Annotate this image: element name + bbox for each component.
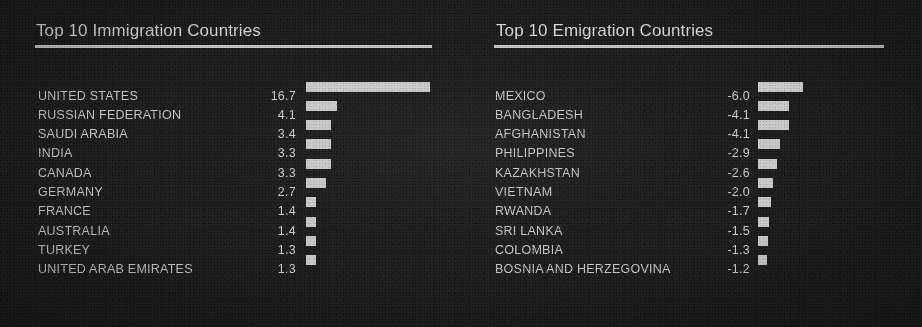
bar-row: RUSSIAN FEDERATION4.1 (0, 106, 470, 125)
bar-row: PHILIPPINES-2.9 (470, 144, 922, 163)
emigration-country-label: SRI LANKA (495, 222, 563, 241)
immigration-value-label: 16.7 (216, 87, 296, 106)
immigration-bar (306, 159, 331, 169)
bar-row: TURKEY1.3 (0, 241, 470, 260)
immigration-country-label: GERMANY (38, 183, 103, 202)
emigration-country-label: PHILIPPINES (495, 144, 575, 163)
emigration-value-label: -1.3 (670, 241, 750, 260)
immigration-value-label: 3.4 (216, 125, 296, 144)
immigration-value-label: 1.3 (216, 241, 296, 260)
emigration-bar-rows: MEXICO-6.0BANGLADESH-4.1AFGHANISTAN-4.1P… (470, 0, 922, 327)
bar-row: SRI LANKA-1.5 (470, 222, 922, 241)
immigration-country-label: SAUDI ARABIA (38, 125, 128, 144)
immigration-bar (306, 197, 316, 207)
immigration-value-label: 3.3 (216, 144, 296, 163)
immigration-country-label: CANADA (38, 164, 92, 183)
bar-row: CANADA3.3 (0, 164, 470, 183)
immigration-country-label: TURKEY (38, 241, 90, 260)
immigration-value-label: 1.3 (216, 260, 296, 279)
immigration-value-label: 1.4 (216, 222, 296, 241)
emigration-country-label: BOSNIA AND HERZEGOVINA (495, 260, 671, 279)
emigration-value-label: -4.1 (670, 125, 750, 144)
immigration-country-label: RUSSIAN FEDERATION (38, 106, 181, 125)
emigration-country-label: KAZAKHSTAN (495, 164, 580, 183)
immigration-bar (306, 255, 316, 265)
emigration-value-label: -2.0 (670, 183, 750, 202)
immigration-bar (306, 236, 316, 246)
bar-row: KAZAKHSTAN-2.6 (470, 164, 922, 183)
bar-row: VIETNAM-2.0 (470, 183, 922, 202)
bar-row: COLOMBIA-1.3 (470, 241, 922, 260)
bar-row: BANGLADESH-4.1 (470, 106, 922, 125)
emigration-bar (758, 197, 771, 207)
emigration-bar (758, 159, 777, 169)
immigration-country-label: INDIA (38, 144, 73, 163)
emigration-value-label: -1.5 (670, 222, 750, 241)
emigration-bar (758, 236, 768, 246)
immigration-value-label: 1.4 (216, 202, 296, 221)
bar-row: INDIA3.3 (0, 144, 470, 163)
immigration-bar (306, 139, 331, 149)
emigration-bar (758, 139, 780, 149)
immigration-bar (306, 217, 316, 227)
immigration-country-label: UNITED ARAB EMIRATES (38, 260, 193, 279)
emigration-value-label: -1.2 (670, 260, 750, 279)
immigration-bar (306, 82, 430, 92)
immigration-bar (306, 120, 331, 130)
emigration-country-label: VIETNAM (495, 183, 552, 202)
emigration-value-label: -2.6 (670, 164, 750, 183)
emigration-country-label: COLOMBIA (495, 241, 563, 260)
immigration-value-label: 4.1 (216, 106, 296, 125)
emigration-bar (758, 255, 767, 265)
emigration-value-label: -2.9 (670, 144, 750, 163)
emigration-bar (758, 217, 769, 227)
immigration-country-label: AUSTRALIA (38, 222, 110, 241)
emigration-value-label: -6.0 (670, 87, 750, 106)
bar-row: AFGHANISTAN-4.1 (470, 125, 922, 144)
immigration-country-label: UNITED STATES (38, 87, 138, 106)
bar-row: MEXICO-6.0 (470, 87, 922, 106)
emigration-bar (758, 178, 773, 188)
emigration-bar (758, 82, 803, 92)
emigration-bar (758, 101, 789, 111)
immigration-value-label: 3.3 (216, 164, 296, 183)
emigration-panel: Top 10 Emigration Countries MEXICO-6.0BA… (470, 0, 922, 327)
emigration-value-label: -4.1 (670, 106, 750, 125)
emigration-bar (758, 120, 789, 130)
bar-row: UNITED ARAB EMIRATES1.3 (0, 260, 470, 279)
bar-row: FRANCE1.4 (0, 202, 470, 221)
immigration-value-label: 2.7 (216, 183, 296, 202)
bar-row: UNITED STATES16.7 (0, 87, 470, 106)
emigration-country-label: MEXICO (495, 87, 546, 106)
bar-row: AUSTRALIA1.4 (0, 222, 470, 241)
immigration-bar (306, 178, 326, 188)
bar-row: RWANDA-1.7 (470, 202, 922, 221)
immigration-panel: Top 10 Immigration Countries UNITED STAT… (0, 0, 470, 327)
bar-row: GERMANY2.7 (0, 183, 470, 202)
immigration-bar-rows: UNITED STATES16.7RUSSIAN FEDERATION4.1SA… (0, 0, 470, 327)
emigration-country-label: AFGHANISTAN (495, 125, 586, 144)
bar-row: SAUDI ARABIA3.4 (0, 125, 470, 144)
immigration-bar (306, 101, 337, 111)
emigration-value-label: -1.7 (670, 202, 750, 221)
immigration-emigration-infographic: Top 10 Immigration Countries UNITED STAT… (0, 0, 922, 327)
emigration-country-label: RWANDA (495, 202, 551, 221)
immigration-country-label: FRANCE (38, 202, 91, 221)
emigration-country-label: BANGLADESH (495, 106, 583, 125)
bar-row: BOSNIA AND HERZEGOVINA-1.2 (470, 260, 922, 279)
